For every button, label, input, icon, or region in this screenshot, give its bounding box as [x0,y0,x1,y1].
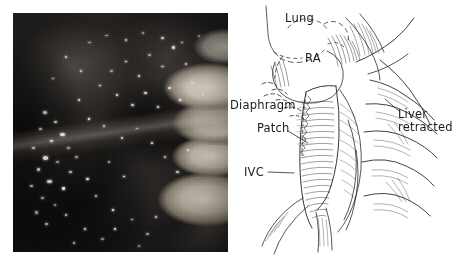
photo-vignette [13,13,228,252]
label-liver-retracted: Liver retracted [398,108,453,134]
label-lung: Lung [285,12,314,26]
label-liver-line1: Liver [398,108,453,121]
ivc-leader [268,172,294,173]
label-patch: Patch [257,122,290,136]
great-vessel-outline [346,14,414,80]
liver-lobes-outline [362,60,437,216]
anatomical-line-drawing: Lung RA Diaphragm Patch IVC Liver retrac… [228,0,457,274]
label-liver-line2: retracted [398,121,453,134]
surgical-figure: Lung RA Diaphragm Patch IVC Liver retrac… [0,0,457,274]
intraoperative-photograph [13,13,228,252]
label-ivc: IVC [244,166,264,180]
label-ra: RA [305,52,321,66]
label-diaphragm: Diaphragm [230,99,296,113]
illustration-linework [228,0,457,274]
ivc-branches [262,198,332,254]
ivc-hatching [300,101,334,218]
